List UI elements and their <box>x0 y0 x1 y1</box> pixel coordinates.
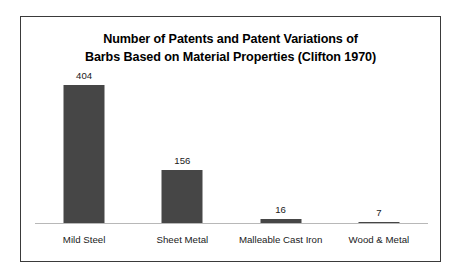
chart-title-line-1: Number of Patents and Patent Variations … <box>21 31 440 49</box>
bar-value-wood-and-metal: 7 <box>376 208 381 218</box>
chart-title: Number of Patents and Patent Variations … <box>21 31 440 67</box>
x-axis-line <box>35 223 428 224</box>
bar-sheet-metal <box>162 170 203 224</box>
x-tick-label-wood-and-metal: Wood & Metal <box>330 229 428 251</box>
bar-group-wood-and-metal: 7 <box>330 73 428 224</box>
x-tick-label-mild-steel: Mild Steel <box>35 229 133 251</box>
bar-group-malleable-cast-iron: 16 <box>232 73 330 224</box>
bar-group-mild-steel: 404 <box>35 73 133 224</box>
bar-value-sheet-metal: 156 <box>174 156 190 166</box>
chart-figure: Number of Patents and Patent Variations … <box>20 16 441 262</box>
bar-group-sheet-metal: 156 <box>133 73 231 224</box>
x-tick-label-malleable-cast-iron: Malleable Cast Iron <box>232 229 330 251</box>
bar-mild-steel <box>64 85 105 224</box>
plot-area: 404 156 16 7 <box>35 73 428 224</box>
x-axis-category-labels: Mild Steel Sheet Metal Malleable Cast Ir… <box>35 229 428 251</box>
bar-value-malleable-cast-iron: 16 <box>275 205 286 215</box>
x-tick-label-sheet-metal: Sheet Metal <box>133 229 231 251</box>
chart-title-line-2: Barbs Based on Material Properties (Clif… <box>21 49 440 67</box>
bar-value-mild-steel: 404 <box>76 71 92 81</box>
